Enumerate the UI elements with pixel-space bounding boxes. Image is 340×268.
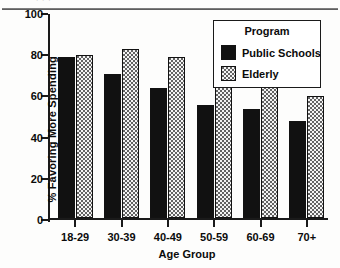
legend-item-elderly: Elderly xyxy=(221,66,279,81)
x-tick-label: 40-49 xyxy=(154,231,182,243)
legend-label-elderly: Elderly xyxy=(242,68,279,80)
legend-title: Program xyxy=(214,25,320,37)
page-rule-divider xyxy=(2,8,338,10)
x-tick-mark xyxy=(260,220,262,227)
x-tick-mark xyxy=(121,220,123,227)
x-tick-label: 18-29 xyxy=(61,231,89,243)
bar-60-69-public-schools xyxy=(243,109,260,218)
y-tick-label: 40 xyxy=(31,132,43,144)
x-axis-line xyxy=(48,218,328,220)
y-tick-label: 80 xyxy=(31,49,43,61)
x-tick-label: 30-39 xyxy=(107,231,135,243)
x-tick-mark xyxy=(213,220,215,227)
y-axis-title: % Favoring More Spending xyxy=(46,56,58,203)
legend-swatch-elderly xyxy=(221,66,236,81)
y-tick-label: 20 xyxy=(31,173,43,185)
legend-label-public-schools: Public Schools xyxy=(242,47,321,59)
y-tick-label: 0 xyxy=(37,214,43,226)
bar-30-39-elderly xyxy=(122,49,139,218)
bar-70--public-schools xyxy=(289,121,306,218)
bar-18-29-elderly xyxy=(76,55,93,218)
scan-smudge-left: · · · xyxy=(36,0,52,5)
bar-18-29-public-schools xyxy=(58,57,75,218)
x-tick-label: 70+ xyxy=(297,231,316,243)
bar-70--elderly xyxy=(307,96,324,218)
x-tick-mark xyxy=(167,220,169,227)
legend-item-public-schools: Public Schools xyxy=(221,45,321,60)
x-tick-label: 60-69 xyxy=(246,231,274,243)
bar-40-49-elderly xyxy=(168,57,185,218)
y-tick-label: 60 xyxy=(31,90,43,102)
legend-swatch-public-schools xyxy=(221,45,236,60)
y-tick-label: 100 xyxy=(25,8,43,20)
bar-50-59-public-schools xyxy=(197,105,214,218)
x-tick-mark xyxy=(74,220,76,227)
x-tick-label: 50-59 xyxy=(200,231,228,243)
bar-40-49-public-schools xyxy=(150,88,167,218)
x-axis-title: Age Group xyxy=(48,248,326,260)
legend: Program Public Schools Elderly xyxy=(213,20,321,88)
bar-60-69-elderly xyxy=(261,84,278,218)
bar-30-39-public-schools xyxy=(104,74,121,218)
chart-figure: · · · 020406080100 18-2930-3940-4950-596… xyxy=(0,0,340,268)
x-tick-mark xyxy=(306,220,308,227)
